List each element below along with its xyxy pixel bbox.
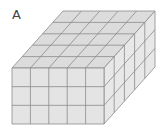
front-face bbox=[12, 68, 104, 124]
cube-prism-diagram bbox=[0, 0, 166, 129]
